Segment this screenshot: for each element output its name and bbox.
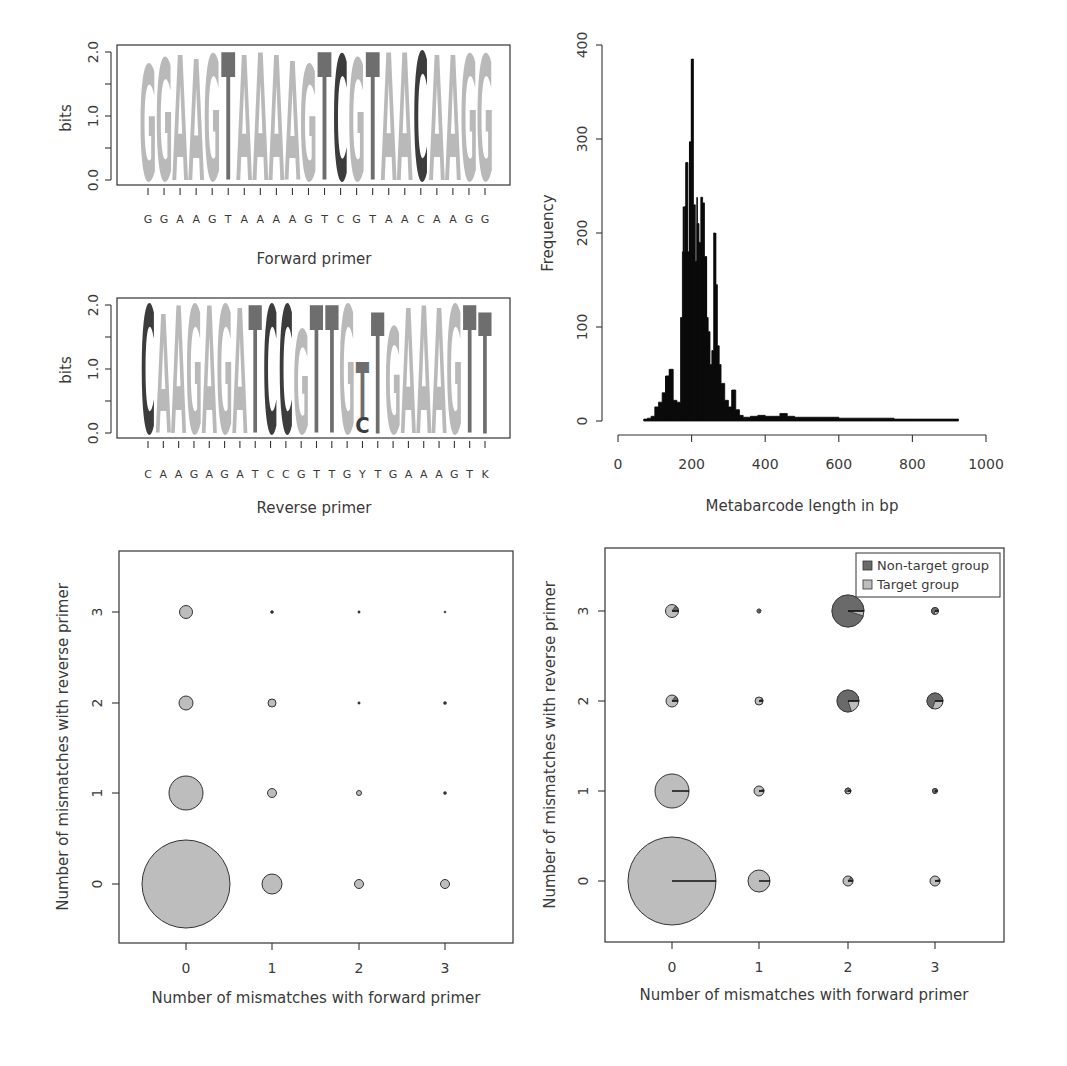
reverse-logo-xlabel: Reverse primer bbox=[257, 499, 373, 517]
bubble-point bbox=[180, 606, 193, 619]
y-tick-label: 3 bbox=[89, 608, 105, 617]
consensus-letter: A bbox=[401, 213, 409, 226]
y-tick-label: 0 bbox=[89, 880, 105, 889]
pie-bubble-point bbox=[933, 789, 938, 794]
y-tick-label: 100 bbox=[574, 314, 590, 341]
consensus-letter: C bbox=[417, 213, 425, 226]
pie-bubble-point bbox=[927, 693, 943, 709]
x-tick-label: 3 bbox=[441, 960, 450, 976]
reverse-logo-ylabel: bits bbox=[57, 356, 75, 384]
x-tick-label: 2 bbox=[355, 960, 364, 976]
bubble-point bbox=[268, 699, 276, 707]
consensus-letter: T bbox=[373, 468, 381, 481]
consensus-letter: G bbox=[389, 468, 398, 481]
bubble-xlabel: Number of mismatches with forward primer bbox=[152, 989, 482, 1007]
pie-bubble-point bbox=[628, 837, 716, 925]
consensus-letter: A bbox=[435, 468, 443, 481]
consensus-letter: G bbox=[343, 468, 352, 481]
bubble-point bbox=[441, 880, 450, 889]
histogram-ylabel: Frequency bbox=[539, 194, 557, 272]
consensus-letter: A bbox=[420, 468, 428, 481]
consensus-letter: C bbox=[337, 213, 345, 226]
bubble-point bbox=[444, 702, 447, 705]
consensus-letter: A bbox=[241, 213, 249, 226]
x-tick-label: 1 bbox=[268, 960, 277, 976]
y-tick-label: 2.0 bbox=[85, 41, 101, 63]
forward-primer-logo: GGAAGTAAAAGTCGTAACAAGG 0.01.02.0 GGAAGTA… bbox=[57, 17, 510, 268]
x-tick-label: 0 bbox=[614, 456, 623, 472]
consensus-letter: G bbox=[450, 468, 459, 481]
bubble-point bbox=[169, 776, 203, 810]
pie-bubble-xlabel: Number of mismatches with forward primer bbox=[640, 986, 970, 1004]
bubble-point bbox=[358, 611, 360, 613]
consensus-letter: T bbox=[368, 213, 376, 226]
x-tick-label: 0 bbox=[668, 959, 677, 975]
consensus-letter: A bbox=[236, 468, 244, 481]
consensus-letter: C bbox=[144, 468, 152, 481]
y-tick-label: 2 bbox=[89, 699, 105, 708]
consensus-letter: T bbox=[320, 213, 328, 226]
x-tick-label: 1 bbox=[755, 959, 764, 975]
y-tick-label: 1 bbox=[575, 787, 591, 796]
y-tick-label: 1 bbox=[89, 789, 105, 798]
bubble-point bbox=[444, 611, 446, 613]
y-tick-label: 400 bbox=[574, 32, 590, 59]
forward-logo-xlabel: Forward primer bbox=[257, 250, 373, 268]
consensus-letter: T bbox=[327, 468, 335, 481]
x-tick-label: 800 bbox=[899, 456, 926, 472]
y-tick-label: 2 bbox=[575, 697, 591, 706]
consensus-letter: Y bbox=[358, 468, 366, 481]
consensus-letter: T bbox=[312, 468, 320, 481]
pie-bubble-point bbox=[748, 870, 770, 892]
y-tick-label: 0 bbox=[574, 417, 590, 426]
consensus-letter: T bbox=[465, 468, 473, 481]
bubble-point bbox=[142, 840, 230, 928]
pie-bubble-point bbox=[666, 605, 679, 618]
y-tick-label: 0.0 bbox=[85, 422, 101, 444]
x-tick-label: 3 bbox=[931, 959, 940, 975]
bubble-points bbox=[142, 606, 450, 929]
reverse-primer-logo: CAAGAGATCCGTTGTCTGAAAGTT 0.01.02.0 CAAGA… bbox=[57, 270, 510, 517]
reverse-logo-y-axis: 0.01.02.0 bbox=[85, 294, 111, 444]
pie-bubble-ylabel: Number of mismatches with reverse primer bbox=[541, 580, 559, 909]
y-tick-label: 2.0 bbox=[85, 294, 101, 316]
consensus-letter: G bbox=[160, 213, 169, 226]
legend-label-target: Target group bbox=[876, 577, 959, 592]
x-tick-label: 200 bbox=[678, 456, 705, 472]
consensus-letter: A bbox=[160, 468, 168, 481]
figure-canvas: GGAAGTAAAAGTCGTAACAAGG 0.01.02.0 GGAAGTA… bbox=[0, 0, 1067, 1066]
x-tick-label: 2 bbox=[844, 959, 853, 975]
consensus-letter: T bbox=[251, 468, 259, 481]
bubble-point bbox=[271, 611, 274, 614]
pie-bubble-point bbox=[754, 786, 764, 796]
bubble-point bbox=[358, 702, 360, 704]
x-tick-label: 600 bbox=[825, 456, 852, 472]
consensus-letter: A bbox=[206, 468, 214, 481]
pie-bubble-point bbox=[666, 695, 678, 707]
consensus-letter: T bbox=[224, 213, 232, 226]
consensus-letter: A bbox=[176, 213, 184, 226]
consensus-letter: A bbox=[257, 213, 265, 226]
bubble-point bbox=[262, 874, 282, 894]
bubble-point bbox=[179, 696, 193, 710]
pie-bubble-point bbox=[837, 690, 859, 712]
pie-bubble-point bbox=[845, 788, 851, 794]
consensus-letter: A bbox=[385, 213, 393, 226]
y-tick-label: 300 bbox=[574, 126, 590, 153]
consensus-letter: G bbox=[465, 213, 474, 226]
x-tick-label: 1000 bbox=[968, 456, 1004, 472]
consensus-letter: A bbox=[405, 468, 413, 481]
length-histogram: 010020030040002004006008001000 Metabarco… bbox=[539, 32, 1004, 515]
bubble-point bbox=[357, 791, 362, 796]
consensus-letter: G bbox=[220, 468, 229, 481]
y-tick-label: 1.0 bbox=[85, 105, 101, 127]
consensus-letter: A bbox=[289, 213, 297, 226]
consensus-letter: G bbox=[352, 213, 361, 226]
consensus-letter: K bbox=[481, 468, 489, 481]
x-tick-label: 400 bbox=[752, 456, 779, 472]
forward-logo-ylabel: bits bbox=[57, 104, 75, 132]
mismatch-bubble-chart: 01230123 Number of mismatches with forwa… bbox=[54, 551, 513, 1007]
pie-bubble-point bbox=[932, 608, 939, 615]
bubble-ylabel: Number of mismatches with reverse primer bbox=[54, 582, 72, 911]
y-tick-label: 0.0 bbox=[85, 169, 101, 191]
